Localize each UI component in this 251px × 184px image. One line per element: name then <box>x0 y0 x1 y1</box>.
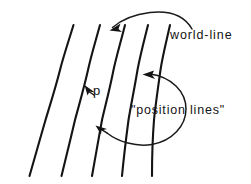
figure-canvas: world-line "position lines" p <box>0 0 251 184</box>
world-line-curve-4 <box>122 25 148 176</box>
world-line-curve-3 <box>92 25 125 176</box>
label-point-p: p <box>93 84 100 97</box>
label-position-lines: "position lines" <box>131 104 225 117</box>
world-line-curve-5 <box>152 25 170 176</box>
label-world-line: world-line <box>170 29 233 42</box>
world-line-curve-group <box>30 25 171 176</box>
